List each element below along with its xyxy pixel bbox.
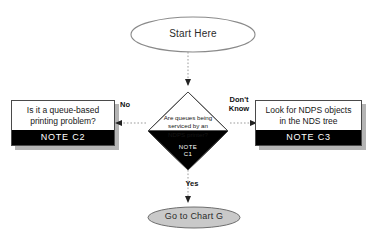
right-box-text: Look for NDPS objects in the NDS tree (256, 101, 361, 130)
start-ellipse-shape (131, 17, 255, 52)
decision-note-text: NOTE C1 (148, 144, 228, 159)
decision-node[interactable]: Are queues being serviced by an NDPS pri… (148, 92, 228, 170)
left-box-text: Is it a queue-based printing problem? (12, 101, 114, 130)
left-box-note-bar: NOTE C2 (12, 130, 114, 145)
decision-line3: NDPS printer? (168, 131, 208, 138)
decision-line1: Are queues being (164, 114, 213, 121)
process-box-right[interactable]: Look for NDPS objects in the NDS tree NO… (255, 100, 362, 146)
decision-question-text: Are queues being serviced by an NDPS pri… (148, 114, 228, 139)
right-box-note-bar: NOTE C3 (256, 130, 361, 145)
left-box-line1: Is it a queue-based (27, 105, 99, 115)
right-box-line2: in the NDS tree (279, 116, 337, 126)
decision-note-line2: C1 (184, 151, 192, 157)
end-ellipse-shape (148, 207, 240, 228)
left-box-line2: printing problem? (30, 116, 96, 126)
process-box-left[interactable]: Is it a queue-based printing problem? NO… (11, 100, 115, 146)
right-box-line1: Look for NDPS objects (266, 105, 352, 115)
decision-line2: serviced by an (168, 122, 208, 129)
decision-note-line1: NOTE (179, 144, 197, 150)
flowchart-canvas: Start Here Is it a queue-based printing … (0, 0, 372, 239)
